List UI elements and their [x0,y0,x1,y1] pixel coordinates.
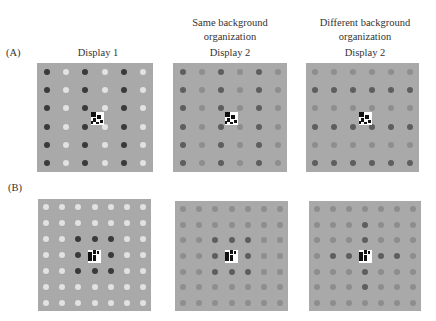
stimulus-dot [378,222,384,228]
stimulus-dot [102,160,108,166]
stimulus-dot [237,142,243,148]
stimulus-dot [350,124,356,130]
stimulus-dot [43,300,49,306]
stimulus-dot [218,69,224,75]
stimulus-dot [140,87,146,93]
stimulus-dot [346,222,352,228]
stimulus-dot [196,206,202,212]
stimulus-dot [140,204,146,210]
stimulus-dot [237,160,243,166]
stimulus-dot [312,142,318,148]
stimulus-dot [245,300,251,306]
stimulus-dot [394,253,400,259]
stimulus-dot [312,87,318,93]
stimulus-dot [330,284,336,290]
stimulus-dot [82,124,88,130]
stimulus-dot [63,105,69,111]
stimulus-dot [378,206,384,212]
stimulus-dot [331,87,337,93]
stimulus-dot [314,284,320,290]
stimulus-dot [140,160,146,166]
stimulus-dot [140,268,146,274]
stimulus-dot [229,222,235,228]
stimulus-dot [199,124,205,130]
stimulus-dot [102,87,108,93]
stimulus-dot [44,87,50,93]
target-stimulus [225,112,238,125]
stimulus-dot [245,253,251,259]
stimulus-dot [277,206,283,212]
stimulus-dot [59,220,65,226]
row-label-a: (A) [6,46,21,59]
stimulus-dot [378,237,384,243]
stimulus-dot [82,105,88,111]
stimulus-dot [108,220,114,226]
stimulus-dot [245,222,251,228]
stimulus-dot [394,284,400,290]
stimulus-dot [369,160,375,166]
stimulus-dot [388,105,394,111]
stimulus-dot [82,69,88,75]
stimulus-dot [410,222,416,228]
stimulus-dot [407,124,413,130]
stimulus-dot [410,269,416,275]
stimulus-dot [261,269,267,275]
stimulus-dot [180,222,186,228]
stimulus-dot [407,69,413,75]
stimulus-dot [369,142,375,148]
stimulus-dot [124,268,130,274]
stimulus-dot [196,253,202,259]
stimulus-dot [346,253,352,259]
target-stimulus [88,250,101,263]
stimulus-dot [75,252,81,258]
stimulus-dot [212,284,218,290]
stimulus-dot [378,284,384,290]
stimulus-dot [378,269,384,275]
stimulus-dot [43,252,49,258]
stimulus-dot [362,222,368,228]
stimulus-dot [92,300,98,306]
stimulus-dot [43,284,49,290]
stimulus-dot [102,142,108,148]
stimulus-dot [92,284,98,290]
stimulus-dot [277,253,283,259]
stimulus-dot [102,69,108,75]
stimulus-dot [140,105,146,111]
stimulus-dot [275,142,281,148]
stimulus-dot [314,300,320,306]
stimulus-dot [44,124,50,130]
stimulus-dot [82,160,88,166]
stimulus-dot [124,204,130,210]
col2-title: Display 2 [190,46,270,59]
stimulus-dot [369,87,375,93]
stimulus-dot [314,206,320,212]
stimulus-dot [75,268,81,274]
stimulus-dot [75,300,81,306]
stimulus-dot [75,236,81,242]
stimulus-dot [92,220,98,226]
col1-title: Display 1 [68,46,128,59]
stimulus-dot [277,222,283,228]
stimulus-dot [261,253,267,259]
stimulus-dot [140,284,146,290]
stimulus-dot [196,284,202,290]
stimulus-dot [362,206,368,212]
stimulus-dot [245,237,251,243]
stimulus-dot [229,284,235,290]
stimulus-dot [237,87,243,93]
stimulus-dot [237,105,243,111]
stimulus-dot [212,222,218,228]
col2-header-line2: organization [180,30,280,43]
stimulus-dot [369,105,375,111]
stimulus-dot [312,160,318,166]
stimulus-dot [75,220,81,226]
stimulus-dot [108,268,114,274]
stimulus-dot [261,237,267,243]
stimulus-dot [314,269,320,275]
stimulus-dot [256,124,262,130]
stimulus-dot [388,124,394,130]
stimulus-dot [199,69,205,75]
stimulus-dot [82,142,88,148]
stimulus-dot [330,269,336,275]
stimulus-dot [63,142,69,148]
